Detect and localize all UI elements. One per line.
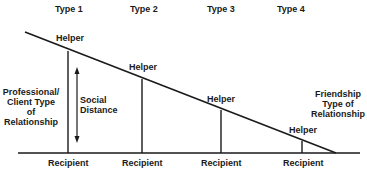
left-label-line: of bbox=[2, 107, 60, 117]
right-label-line: Friendship bbox=[310, 89, 366, 99]
left-label-line: Relationship bbox=[2, 117, 60, 127]
type-4-label: Type 4 bbox=[277, 4, 305, 14]
left-label-line: Client Type bbox=[2, 97, 60, 107]
recipient-label-type4: Recipient bbox=[283, 158, 324, 168]
social-distance-label: Social Distance bbox=[80, 95, 118, 115]
recipient-label-type1: Recipient bbox=[48, 158, 89, 168]
type-2-label: Type 2 bbox=[130, 4, 158, 14]
recipient-label-type2: Recipient bbox=[122, 158, 163, 168]
professional-client-label: Professional/ Client Type of Relationshi… bbox=[2, 87, 60, 127]
axis-label-line: Social bbox=[80, 95, 118, 105]
friendship-label: Friendship Type of Relationship bbox=[310, 89, 366, 119]
helper-label-type4: Helper bbox=[289, 125, 317, 135]
arrow-up-icon bbox=[75, 67, 80, 74]
right-label-line: Relationship bbox=[310, 109, 366, 119]
type-1-label: Type 1 bbox=[55, 4, 83, 14]
type-3-label: Type 3 bbox=[207, 4, 235, 14]
social-distance-diagram: Type 1 Type 2 Type 3 Type 4 Helper Helpe… bbox=[0, 0, 367, 176]
helper-label-type1: Helper bbox=[56, 33, 84, 43]
right-label-line: Type of bbox=[310, 99, 366, 109]
left-label-line: Professional/ bbox=[2, 87, 60, 97]
helper-label-type2: Helper bbox=[129, 62, 157, 72]
axis-label-line: Distance bbox=[80, 105, 118, 115]
arrow-down-icon bbox=[75, 136, 80, 143]
helper-label-type3: Helper bbox=[207, 94, 235, 104]
recipient-label-type3: Recipient bbox=[201, 158, 242, 168]
